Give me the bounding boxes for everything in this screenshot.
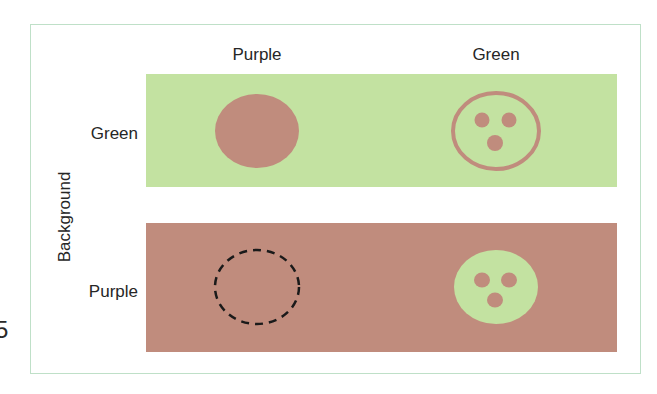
diagram-graphics xyxy=(0,0,657,394)
solid-purple-ellipse xyxy=(215,94,299,168)
purple-background-band xyxy=(146,223,617,352)
green-ellipse-with-holes-icon xyxy=(454,250,538,324)
